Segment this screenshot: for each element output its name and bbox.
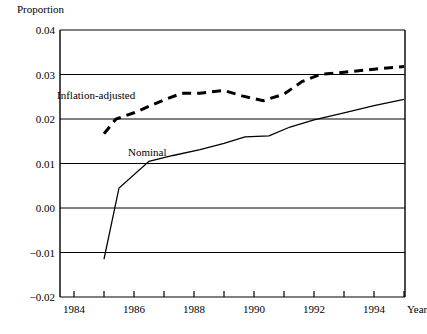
chart-container: Proportion Year 0.040.030.020.010.00−0.0… (0, 0, 427, 334)
plot-area (0, 0, 427, 334)
data-series-lines (104, 66, 404, 259)
series-line-inflation-adjusted (104, 66, 404, 133)
series-line-nominal (104, 99, 404, 259)
series-label-nominal: Nominal (128, 146, 167, 158)
x-axis-ticks (74, 291, 404, 297)
series-label-inflation-adjusted: Inflation-adjusted (57, 89, 135, 101)
gridlines (60, 30, 405, 297)
